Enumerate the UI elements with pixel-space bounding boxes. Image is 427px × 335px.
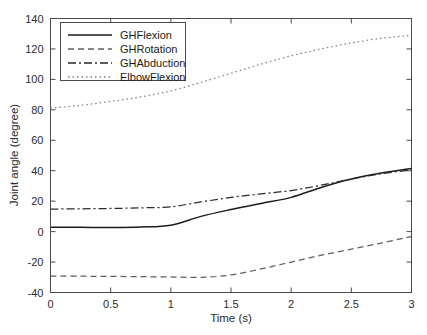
- x-axis-title: Time (s): [210, 312, 252, 324]
- x-tick-label: 1.5: [223, 298, 238, 310]
- x-tick-label: 0: [47, 298, 53, 310]
- y-tick-label: 0: [37, 226, 43, 238]
- x-tick-label: 3: [408, 298, 414, 310]
- x-tick-label: 2: [288, 298, 294, 310]
- joint-angle-line-chart: -40-20020406080100120140 00.511.522.53 J…: [0, 0, 427, 335]
- legend-label-ghrotation: GHRotation: [120, 43, 177, 55]
- caption-sliver: [4, 325, 424, 335]
- legend-label-ghflexion: GHFlexion: [120, 29, 172, 41]
- y-tick-label: -20: [28, 256, 44, 268]
- y-tick-label: 20: [31, 195, 43, 207]
- y-tick-label: -40: [28, 287, 44, 299]
- y-axis-title: Joint angle (degree): [8, 104, 20, 206]
- x-tick-label: 0.5: [103, 298, 118, 310]
- y-tick-label: 100: [25, 73, 43, 85]
- x-tick-label: 1: [168, 298, 174, 310]
- y-tick-label: 120: [25, 43, 43, 55]
- figure-container: -40-20020406080100120140 00.511.522.53 J…: [0, 0, 427, 335]
- y-tick-label: 80: [31, 104, 43, 116]
- y-tick-label: 40: [31, 165, 43, 177]
- series-line-ghabduction: [51, 170, 412, 209]
- series-line-ghrotation: [51, 236, 412, 277]
- legend-label-elbowflexion: ElbowFlexion: [120, 71, 185, 83]
- y-tick-label: 60: [31, 134, 43, 146]
- y-tick-label: 140: [25, 13, 43, 25]
- legend: GHFlexionGHRotationGHAbductionElbowFlexi…: [61, 23, 186, 84]
- legend-label-ghabduction: GHAbduction: [120, 57, 185, 69]
- x-tick-label: 2.5: [344, 298, 359, 310]
